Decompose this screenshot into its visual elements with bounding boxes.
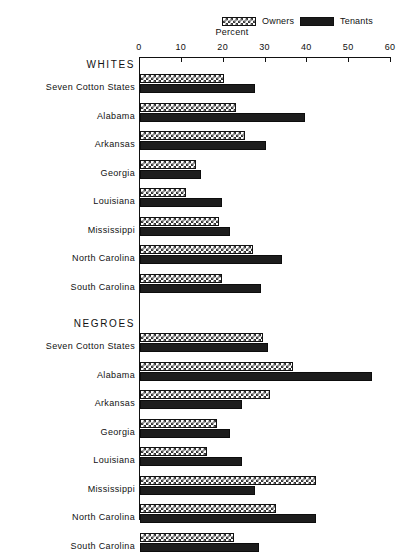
bar-owners xyxy=(140,217,219,226)
bar-tenants xyxy=(140,514,316,523)
x-axis-tick-label: 10 xyxy=(176,42,187,52)
section-heading-whites: WHITES xyxy=(3,59,135,70)
category-label-column: WHITESSeven Cotton StatesAlabamaArkansas… xyxy=(0,57,135,520)
category-label: Arkansas xyxy=(3,139,135,149)
category-label: North Carolina xyxy=(3,512,135,522)
bar-tenants xyxy=(140,372,372,381)
category-label: Alabama xyxy=(3,370,135,380)
bar-owners xyxy=(140,74,224,83)
x-axis-tick-label: 30 xyxy=(259,42,270,52)
bar-owners xyxy=(140,245,253,254)
bar-tenants xyxy=(140,343,268,352)
bar-owners xyxy=(140,533,234,542)
bar-tenants xyxy=(140,429,230,438)
checkered-swatch-icon xyxy=(222,17,256,26)
category-label: Arkansas xyxy=(3,398,135,408)
x-axis-tick-label: 60 xyxy=(385,42,396,52)
x-axis-tick xyxy=(306,57,307,62)
category-label: Seven Cotton States xyxy=(3,82,135,92)
category-label: South Carolina xyxy=(3,541,135,551)
x-axis-tick-label: 40 xyxy=(301,42,312,52)
solid-swatch-icon xyxy=(300,17,334,26)
category-label: South Carolina xyxy=(3,282,135,292)
x-axis-tick xyxy=(223,57,224,62)
category-label: Mississippi xyxy=(3,484,135,494)
bar-tenants xyxy=(140,227,230,236)
bar-owners xyxy=(140,103,236,112)
x-axis-tick xyxy=(390,57,391,62)
bar-tenants xyxy=(140,457,242,466)
category-label: Seven Cotton States xyxy=(3,341,135,351)
bar-tenants xyxy=(140,198,222,207)
bar-tenants xyxy=(140,486,255,495)
x-axis-tick xyxy=(139,57,140,62)
bar-tenants xyxy=(140,113,305,122)
bar-owners xyxy=(140,131,245,140)
bar-owners xyxy=(140,333,263,342)
bar-tenants xyxy=(140,284,261,293)
bar-owners xyxy=(140,362,293,371)
category-label: Georgia xyxy=(3,168,135,178)
bar-tenants xyxy=(140,170,201,179)
bar-owners xyxy=(140,504,276,513)
plot-area: 0102030405060 xyxy=(139,57,390,520)
x-axis-tick-label: 50 xyxy=(343,42,354,52)
x-axis-tick xyxy=(181,57,182,62)
category-label: North Carolina xyxy=(3,253,135,263)
bar-owners xyxy=(140,419,217,428)
axis-title-text: Percent xyxy=(215,27,248,37)
bar-owners xyxy=(140,476,316,485)
x-axis-tick-label: 0 xyxy=(136,42,141,52)
category-label: Louisiana xyxy=(3,455,135,465)
chart-legend: Owners Tenants xyxy=(0,14,414,28)
bar-tenants xyxy=(140,141,266,150)
bar-owners xyxy=(140,160,196,169)
category-label: Louisiana xyxy=(3,196,135,206)
legend-label-tenants: Tenants xyxy=(340,16,373,26)
section-heading-negroes: NEGROES xyxy=(3,318,135,329)
x-axis-tick-label: 20 xyxy=(217,42,228,52)
bar-owners xyxy=(140,274,222,283)
legend-entry-tenants: Tenants xyxy=(300,14,373,28)
axis-title: Percent xyxy=(0,27,414,37)
x-axis-tick xyxy=(348,57,349,62)
bar-tenants xyxy=(140,543,259,552)
bar-owners xyxy=(140,188,186,197)
category-label: Alabama xyxy=(3,111,135,121)
legend-label-owners: Owners xyxy=(262,16,294,26)
bar-tenants xyxy=(140,400,242,409)
bar-tenants xyxy=(140,255,282,264)
bar-tenants xyxy=(140,84,255,93)
legend-entry-owners: Owners xyxy=(222,14,294,28)
bar-owners xyxy=(140,390,270,399)
bar-owners xyxy=(140,447,207,456)
category-label: Georgia xyxy=(3,427,135,437)
x-axis-tick xyxy=(265,57,266,62)
category-label: Mississippi xyxy=(3,225,135,235)
